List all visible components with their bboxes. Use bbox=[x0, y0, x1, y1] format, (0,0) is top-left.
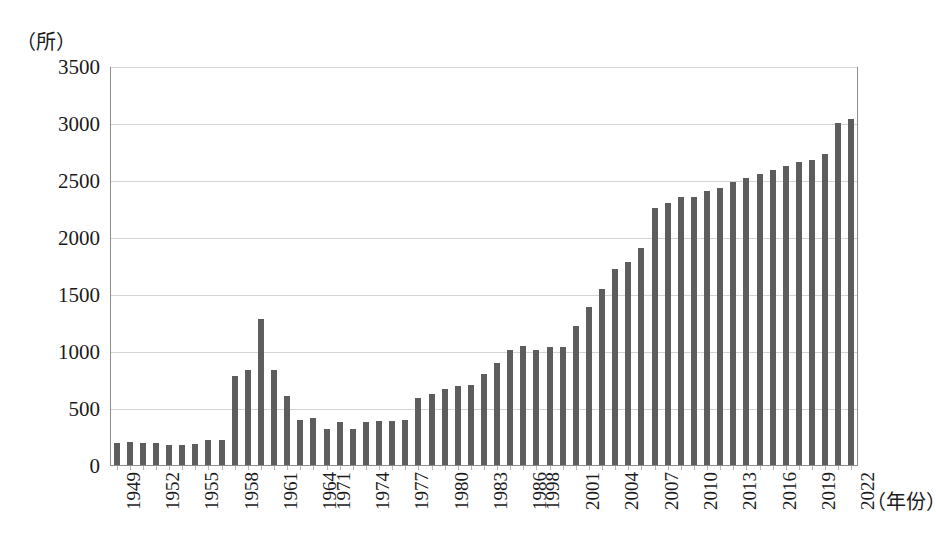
x-axis-tick-mark bbox=[392, 466, 393, 470]
x-axis-tick-mark bbox=[418, 466, 419, 470]
x-axis-tick-mark bbox=[471, 466, 472, 470]
x-axis-tick-mark bbox=[550, 466, 551, 470]
x-axis-tick-mark bbox=[720, 466, 721, 470]
x-axis-tick-mark bbox=[773, 466, 774, 470]
x-axis-tick-mark bbox=[313, 466, 314, 470]
x-axis-tick-mark bbox=[274, 466, 275, 470]
y-axis-tick-label: 1000 bbox=[4, 342, 100, 363]
x-axis-tick-label: 1961 bbox=[281, 472, 300, 510]
x-axis-tick-labels: 1949195219551958196119641971197419771980… bbox=[110, 466, 858, 556]
x-axis-tick-label: 1983 bbox=[491, 472, 510, 510]
plot-frame bbox=[110, 67, 858, 466]
x-axis-tick-mark bbox=[287, 466, 288, 470]
x-axis-tick-label: 1980 bbox=[452, 472, 471, 510]
x-axis-tick-mark bbox=[602, 466, 603, 470]
x-axis-tick-mark bbox=[353, 466, 354, 470]
x-axis-tick-mark bbox=[261, 466, 262, 470]
plot-area bbox=[110, 67, 858, 466]
x-axis-tick-mark bbox=[707, 466, 708, 470]
x-axis-tick-mark bbox=[379, 466, 380, 470]
x-axis-tick-mark bbox=[340, 466, 341, 470]
x-axis-tick-label: 2007 bbox=[662, 472, 681, 510]
x-axis-tick-mark bbox=[615, 466, 616, 470]
x-axis-tick-mark bbox=[156, 466, 157, 470]
x-axis-tick-mark bbox=[851, 466, 852, 470]
x-axis-tick-mark bbox=[760, 466, 761, 470]
x-axis-tick-mark bbox=[208, 466, 209, 470]
x-axis-tick-label: 2019 bbox=[819, 472, 838, 510]
x-axis-tick-mark bbox=[222, 466, 223, 470]
x-axis-tick-mark bbox=[838, 466, 839, 470]
x-axis-tick-label: 1949 bbox=[124, 472, 143, 510]
x-axis-tick-mark bbox=[576, 466, 577, 470]
x-axis-tick-label: 1974 bbox=[373, 472, 392, 510]
y-axis-tick-label: 2500 bbox=[4, 171, 100, 192]
x-axis-tick-mark bbox=[248, 466, 249, 470]
x-axis-tick-label: 2010 bbox=[701, 472, 720, 510]
x-axis-tick-mark bbox=[510, 466, 511, 470]
x-axis-tick-label: 2004 bbox=[622, 472, 641, 510]
x-axis-tick-mark bbox=[432, 466, 433, 470]
x-axis-tick-mark bbox=[655, 466, 656, 470]
x-axis-tick-label: 1958 bbox=[242, 472, 261, 510]
x-axis-tick-mark bbox=[536, 466, 537, 470]
x-axis-tick-mark bbox=[458, 466, 459, 470]
x-axis-tick-mark bbox=[182, 466, 183, 470]
x-axis-tick-mark bbox=[523, 466, 524, 470]
x-axis-tick-mark bbox=[195, 466, 196, 470]
x-axis-tick-mark bbox=[497, 466, 498, 470]
x-axis-tick-label: 1971 bbox=[334, 472, 353, 510]
x-axis-tick-mark bbox=[589, 466, 590, 470]
x-axis-title: （年份） bbox=[866, 486, 936, 515]
chart-canvas: （所） 0500100015002000250030003500 1949195… bbox=[0, 0, 936, 556]
y-axis-tick-label: 3500 bbox=[4, 57, 100, 78]
y-axis-unit-label: （所） bbox=[16, 26, 76, 55]
x-axis-tick-mark bbox=[484, 466, 485, 470]
x-axis-tick-mark bbox=[143, 466, 144, 470]
x-axis-tick-mark bbox=[130, 466, 131, 470]
x-axis-tick-mark bbox=[668, 466, 669, 470]
x-axis-tick-mark bbox=[327, 466, 328, 470]
x-axis-tick-mark bbox=[812, 466, 813, 470]
y-axis-tick-label: 2000 bbox=[4, 228, 100, 249]
y-axis-tick-label: 3000 bbox=[4, 114, 100, 135]
x-axis-tick-mark bbox=[300, 466, 301, 470]
x-axis-tick-mark bbox=[746, 466, 747, 470]
x-axis-tick-label: 2016 bbox=[780, 472, 799, 510]
x-axis-tick-mark bbox=[169, 466, 170, 470]
x-axis-tick-label: 1998 bbox=[543, 472, 562, 510]
x-axis-tick-mark bbox=[825, 466, 826, 470]
x-axis-tick-mark bbox=[733, 466, 734, 470]
x-axis-tick-mark bbox=[117, 466, 118, 470]
x-axis-tick-mark bbox=[681, 466, 682, 470]
x-axis-tick-mark bbox=[799, 466, 800, 470]
x-axis-tick-mark bbox=[235, 466, 236, 470]
x-axis-tick-mark bbox=[628, 466, 629, 470]
x-axis-tick-mark bbox=[405, 466, 406, 470]
x-axis-tick-label: 2001 bbox=[583, 472, 602, 510]
x-axis-tick-label: 2013 bbox=[740, 472, 759, 510]
x-axis-tick-mark bbox=[445, 466, 446, 470]
x-axis-tick-mark bbox=[786, 466, 787, 470]
x-axis-tick-label: 1952 bbox=[163, 472, 182, 510]
x-axis-tick-label: 1977 bbox=[412, 472, 431, 510]
x-axis-tick-mark bbox=[563, 466, 564, 470]
x-axis-tick-mark bbox=[366, 466, 367, 470]
x-axis-tick-label: 1955 bbox=[202, 472, 221, 510]
y-axis-tick-label: 500 bbox=[4, 399, 100, 420]
x-axis-tick-mark bbox=[641, 466, 642, 470]
y-axis-tick-labels: 0500100015002000250030003500 bbox=[0, 67, 100, 466]
x-axis-tick-mark bbox=[694, 466, 695, 470]
y-axis-tick-label: 0 bbox=[4, 456, 100, 477]
y-axis-tick-label: 1500 bbox=[4, 285, 100, 306]
